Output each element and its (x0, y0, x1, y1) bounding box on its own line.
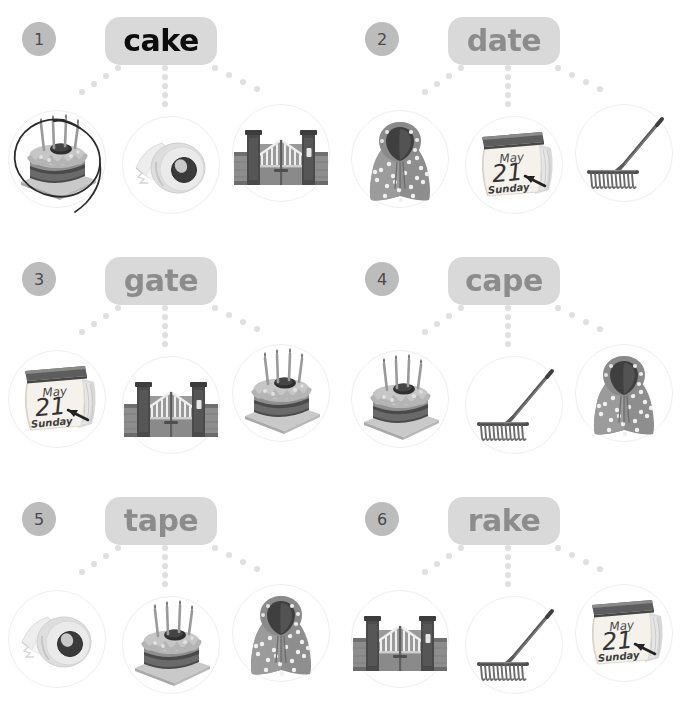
word-label: cake (123, 26, 199, 56)
picture-choice-calendar[interactable]: May 21 Sunday (8, 350, 106, 448)
picture-choice-calendar[interactable]: May 21 Sunday (465, 116, 563, 214)
exercise-item-6: 6rake (343, 480, 686, 719)
exercise-item-2: 2date (343, 0, 686, 240)
picture-choices: May 21 Sunday (343, 100, 686, 215)
picture-choice-calendar[interactable]: May 21 Sunday (575, 584, 673, 682)
cape-icon (232, 584, 330, 682)
picture-choice-cake[interactable] (122, 596, 220, 694)
gate-icon (351, 590, 449, 688)
cake-icon (232, 344, 330, 442)
picture-choices (0, 100, 343, 215)
cake-icon (122, 596, 220, 694)
cape-icon (351, 110, 449, 208)
rake-icon (465, 356, 563, 454)
picture-choices (0, 580, 343, 695)
exercise-number-label: 5 (34, 510, 44, 529)
word-pill-cake: cake (105, 17, 217, 65)
calendar-icon: May 21 Sunday (465, 116, 563, 214)
exercise-number-label: 4 (377, 270, 387, 289)
worksheet-page: 1cake (0, 0, 686, 719)
exercise-number-badge: 6 (365, 502, 399, 536)
word-label: tape (124, 506, 198, 536)
tape-icon (122, 116, 220, 214)
picture-choice-cake[interactable] (232, 344, 330, 442)
picture-choice-tape[interactable] (122, 116, 220, 214)
exercise-item-1: 1cake (0, 0, 343, 240)
exercise-item-4: 4cape (343, 240, 686, 480)
picture-choice-gate[interactable] (232, 104, 330, 202)
picture-choice-gate[interactable] (351, 590, 449, 688)
picture-choices: May 21 Sunday (343, 580, 686, 695)
exercise-number-badge: 2 (365, 22, 399, 56)
picture-choice-cake[interactable] (351, 350, 449, 448)
picture-choice-rake[interactable] (575, 104, 673, 202)
cape-icon (575, 344, 673, 442)
picture-choice-cape[interactable] (351, 110, 449, 208)
cake-icon (8, 110, 106, 208)
word-label: rake (468, 506, 541, 536)
picture-choice-cape[interactable] (232, 584, 330, 682)
picture-choice-cape[interactable] (575, 344, 673, 442)
word-label: date (467, 26, 541, 56)
picture-choice-gate[interactable] (122, 356, 220, 454)
exercise-number-label: 1 (34, 30, 44, 49)
picture-choice-rake[interactable] (465, 596, 563, 694)
picture-choice-rake[interactable] (465, 356, 563, 454)
exercise-number-badge: 3 (22, 262, 56, 296)
word-label: cape (465, 266, 543, 296)
picture-choice-tape[interactable] (8, 590, 106, 688)
exercise-number-label: 2 (377, 30, 387, 49)
calendar-icon: May 21 Sunday (8, 350, 106, 448)
word-label: gate (124, 266, 198, 296)
picture-choice-cake[interactable] (8, 110, 106, 208)
word-pill-rake: rake (448, 497, 560, 545)
gate-icon (232, 104, 330, 202)
gate-icon (122, 356, 220, 454)
exercise-number-badge: 5 (22, 502, 56, 536)
picture-choices (343, 340, 686, 455)
rake-icon (575, 104, 673, 202)
exercise-item-5: 5tape (0, 480, 343, 719)
word-pill-date: date (448, 17, 560, 65)
word-pill-gate: gate (105, 257, 217, 305)
word-pill-tape: tape (105, 497, 217, 545)
rake-icon (465, 596, 563, 694)
picture-choices: May 21 Sunday (0, 340, 343, 455)
word-pill-cape: cape (448, 257, 560, 305)
exercise-number-badge: 1 (22, 22, 56, 56)
tape-icon (8, 590, 106, 688)
exercise-item-3: 3gate (0, 240, 343, 480)
exercise-number-label: 6 (377, 510, 387, 529)
exercise-number-label: 3 (34, 270, 44, 289)
cake-icon (351, 350, 449, 448)
calendar-icon: May 21 Sunday (575, 584, 673, 682)
exercise-number-badge: 4 (365, 262, 399, 296)
